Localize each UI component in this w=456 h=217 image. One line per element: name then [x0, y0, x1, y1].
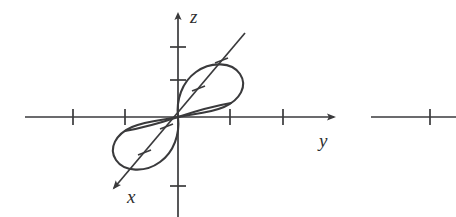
z-axis-label: z — [189, 6, 198, 27]
adjacent-figure-fragment — [371, 109, 456, 125]
y-axis-group: y — [25, 109, 334, 151]
x-axis-tick — [215, 58, 228, 63]
x-axis-label: x — [126, 186, 136, 207]
curve-upper-loop — [178, 64, 244, 117]
x-axis-group: x — [114, 33, 245, 207]
curve-cusp-lower — [125, 117, 178, 131]
figure-container: z y x — [0, 0, 456, 217]
y-axis-label: y — [317, 130, 328, 151]
coordinate-axes-diagram: z y x — [0, 0, 456, 217]
x-axis-line — [114, 33, 245, 188]
curve-cusp-upper — [178, 103, 231, 117]
